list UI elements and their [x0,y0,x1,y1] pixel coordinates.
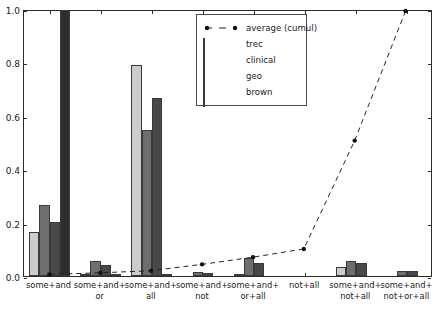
legend-label-geo: geo [246,72,262,81]
color-swatch-geo-icon [203,71,239,81]
y-tick-mark [24,64,27,65]
y-tick-mark [24,278,27,279]
legend-item-brown: brown [203,84,300,100]
bar-brown-1 [111,274,121,276]
x-tick-label: not+all [289,280,319,291]
y-tick-mark [24,11,27,12]
bar-geo-6 [356,263,366,276]
x-tick-mark [305,273,306,276]
x-tick-label: some+and+not [176,280,228,301]
x-tick-label: some+and+not+or+all [380,280,432,301]
y-tick-label: 0.2 [6,220,20,229]
x-tick-mark [356,11,357,14]
bar-geo-0 [50,222,60,276]
legend-item-clinical: clinical [203,52,300,68]
y-tick-mark [428,225,431,226]
x-tick-mark [50,11,51,14]
bar-geo-7 [407,271,417,276]
bar-trec-1 [80,274,90,276]
bar-clinical-2 [142,130,152,276]
y-tick-label: 0.0 [6,274,20,283]
y-tick-label: 0.8 [6,60,20,69]
x-tick-mark [152,11,153,14]
color-swatch-clinical-icon [203,55,239,65]
avg-point-6 [352,138,356,142]
y-tick-label: 0.4 [6,167,20,176]
bar-geo-3 [203,273,213,276]
legend-label-trec: trec [246,40,263,49]
bar-clinical-6 [346,261,356,276]
y-tick-mark [24,118,27,119]
y-tick-mark [24,171,27,172]
y-tick-label: 0.6 [6,113,20,122]
y-tick-mark [428,64,431,65]
bar-geo-4 [254,263,264,276]
y-tick-mark [428,171,431,172]
bar-trec-6 [336,267,346,276]
x-tick-label: some+and+or+all [227,280,279,301]
y-tick-mark [428,118,431,119]
bar-trec-2 [131,65,141,276]
legend-item-trec: trec [203,36,300,52]
bar-clinical-0 [39,205,49,276]
y-tick-mark [24,225,27,226]
bar-clinical-3 [193,272,203,276]
x-tick-label: some+and [26,280,71,291]
color-swatch-trec-icon [203,39,239,49]
bar-geo-1 [101,265,111,276]
bar-geo-2 [152,98,162,276]
legend-item-geo: geo [203,68,300,84]
bar-clinical-1 [90,261,100,276]
x-tick-label: some+and+or [74,280,126,301]
y-tick-mark [428,278,431,279]
bar-clinical-7 [397,271,407,276]
legend-label-clinical: clinical [246,56,276,65]
bar-brown-2 [162,274,172,276]
bar-trec-4 [234,274,244,276]
x-tick-mark [101,11,102,14]
x-tick-label: some+and+not+all [329,280,381,301]
chart-legend: average (cumul) trec clinical geo brown [196,14,307,106]
dashed-line-marker-icon [203,23,239,33]
bar-clinical-4 [244,258,254,276]
y-tick-mark [428,11,431,12]
legend-item-average-cumul: average (cumul) [203,20,300,36]
avg-point-3 [200,262,204,266]
bar-trec-0 [29,232,39,276]
x-tick-mark [407,11,408,14]
legend-label-average-cumul: average (cumul) [246,24,317,33]
avg-point-5 [302,247,306,251]
legend-label-brown: brown [246,88,273,97]
bar-brown-0 [60,10,70,276]
color-swatch-brown-icon [203,87,239,97]
y-tick-label: 1.0 [6,7,20,16]
chart-figure: 0.00.20.40.60.81.0 some+andsome+and+orso… [0,0,441,310]
x-tick-label: some+and+all [125,280,177,301]
